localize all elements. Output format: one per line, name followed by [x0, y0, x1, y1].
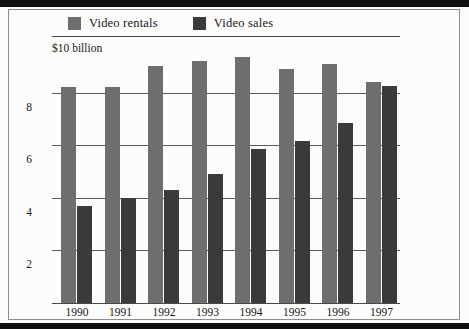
bar-video-rentals-1994: [235, 57, 250, 303]
x-axis-labels: 19901991199219931994199519961997: [52, 306, 400, 324]
page-edge-band-top: [0, 0, 469, 7]
chart-figure: Video rentals Video sales $10 billion 24…: [0, 0, 469, 329]
bar-video-rentals-1996: [322, 64, 337, 303]
bar-video-sales-1997: [382, 86, 397, 303]
legend-swatch-icon-video-rentals: [68, 17, 81, 30]
x-axis-label-1993: 1993: [186, 306, 230, 318]
axis-baseline: [52, 303, 400, 304]
y-tick-label-4: 4: [6, 206, 52, 218]
bar-video-rentals-1991: [105, 87, 120, 303]
legend-swatch-icon-video-sales: [193, 17, 206, 30]
bar-video-sales-1993: [208, 174, 223, 303]
plot-area: 2468: [52, 40, 400, 303]
bar-video-rentals-1997: [366, 82, 381, 303]
bar-video-rentals-1990: [61, 87, 76, 303]
legend-item-video-rentals: Video rentals: [68, 16, 158, 31]
bar-series-container: [52, 40, 400, 303]
y-tick-label-8: 8: [6, 101, 52, 113]
x-axis-label-1990: 1990: [55, 306, 99, 318]
x-axis-label-1997: 1997: [360, 306, 404, 318]
x-axis-label-1996: 1996: [316, 306, 360, 318]
chart-legend: Video rentals Video sales: [68, 13, 273, 33]
bar-video-sales-1994: [251, 149, 266, 303]
legend-divider: [52, 36, 400, 37]
legend-label-video-sales: Video sales: [214, 16, 273, 31]
bar-video-sales-1996: [338, 123, 353, 303]
x-axis-label-1994: 1994: [229, 306, 273, 318]
y-tick-label-2: 2: [6, 258, 52, 270]
bar-video-sales-1995: [295, 141, 310, 303]
x-axis-label-1995: 1995: [273, 306, 317, 318]
bar-video-rentals-1992: [148, 66, 163, 303]
y-tick-label-6: 6: [6, 153, 52, 165]
bar-video-sales-1992: [164, 190, 179, 303]
x-axis-label-1991: 1991: [99, 306, 143, 318]
bar-video-rentals-1993: [192, 61, 207, 303]
legend-item-video-sales: Video sales: [193, 16, 273, 31]
legend-label-video-rentals: Video rentals: [89, 16, 158, 31]
bar-video-sales-1990: [77, 206, 92, 303]
bar-video-rentals-1995: [279, 69, 294, 303]
x-axis-label-1992: 1992: [142, 306, 186, 318]
bar-video-sales-1991: [121, 198, 136, 303]
